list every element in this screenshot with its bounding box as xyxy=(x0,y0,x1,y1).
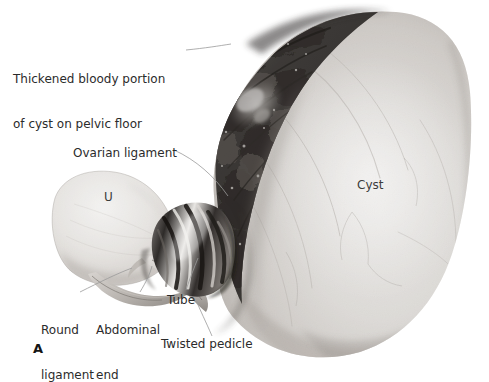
label-uterus: U xyxy=(104,190,113,205)
label-twisted-pedicle: Twisted pedicle xyxy=(161,337,253,352)
label-thickened-line2: of cyst on pelvic floor xyxy=(13,117,165,132)
label-thickened-line1: Thickened bloody portion xyxy=(13,72,165,87)
label-ovarian-ligament: Ovarian ligament xyxy=(73,146,177,161)
label-abdominal-end: Abdominal end xyxy=(96,293,160,382)
medical-illustration-figure: Thickened bloody portion of cyst on pelv… xyxy=(0,0,489,382)
label-round-line1: Round xyxy=(41,323,94,338)
label-cyst: Cyst xyxy=(357,178,383,193)
label-abdominal-line2: end xyxy=(96,368,160,382)
label-round-ligament: Round ligament xyxy=(41,293,94,382)
label-tube: Tube xyxy=(167,293,195,308)
label-abdominal-line1: Abdominal xyxy=(96,323,160,338)
label-round-line2: ligament xyxy=(41,368,94,382)
label-thickened-bloody-portion: Thickened bloody portion of cyst on pelv… xyxy=(13,42,165,162)
panel-letter: A xyxy=(33,341,43,356)
